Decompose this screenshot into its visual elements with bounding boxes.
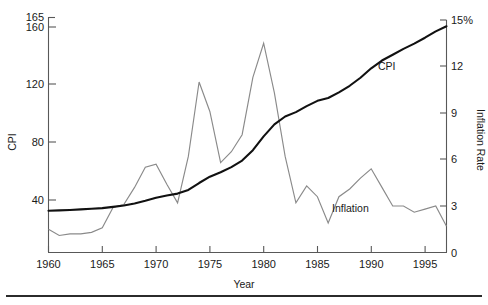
- cpi-series-line: [49, 26, 447, 210]
- right-tick-label-15: 15%: [451, 14, 473, 26]
- x-axis-tick-labels: 1960 1965 1970 1975 1980 1985 1990 1995: [36, 258, 437, 270]
- x-tick-label-1985: 1985: [305, 258, 329, 270]
- left-tick-label-120: 120: [26, 78, 44, 90]
- left-axis-ticks: [49, 27, 57, 200]
- right-tick-label-12: 12: [451, 60, 463, 72]
- left-tick-label-40: 40: [32, 194, 44, 206]
- chart-figure: 165 160 120 80 40 15% 12 9 6 3 0: [0, 0, 488, 305]
- x-tick-label-1960: 1960: [36, 258, 60, 270]
- inflation-series-label: Inflation: [332, 202, 369, 214]
- x-tick-label-1990: 1990: [359, 258, 383, 270]
- cpi-series-label: CPI: [378, 60, 396, 72]
- right-axis-tick-labels: 15% 12 9 6 3 0: [451, 14, 473, 259]
- y-left-axis-title: CPI: [6, 133, 18, 151]
- x-axis-title: Year: [233, 278, 255, 290]
- x-tick-label-1965: 1965: [90, 258, 114, 270]
- line-chart: 165 160 120 80 40 15% 12 9 6 3 0: [0, 0, 488, 305]
- left-axis-tick-labels: 165 160 120 80 40: [26, 11, 44, 206]
- right-tick-label-3: 3: [451, 200, 457, 212]
- x-tick-label-1970: 1970: [144, 258, 168, 270]
- x-tick-label-1980: 1980: [251, 258, 275, 270]
- left-tick-label-80: 80: [32, 136, 44, 148]
- y-right-axis-title: Inflation Rate: [475, 109, 487, 171]
- right-axis-ticks: [440, 20, 447, 206]
- x-axis-ticks: [49, 246, 426, 253]
- left-tick-label-160: 160: [26, 21, 44, 33]
- right-tick-label-6: 6: [451, 153, 457, 165]
- right-tick-label-9: 9: [451, 107, 457, 119]
- right-tick-label-0: 0: [451, 247, 457, 259]
- x-tick-label-1995: 1995: [413, 258, 437, 270]
- footer-rule: [6, 295, 482, 297]
- x-tick-label-1975: 1975: [198, 258, 222, 270]
